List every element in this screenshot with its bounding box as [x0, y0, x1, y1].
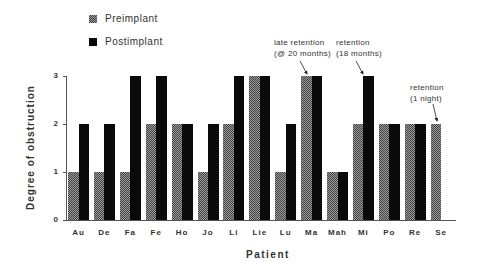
- arrow-se: [433, 104, 437, 121]
- arrow-ma: [300, 61, 307, 74]
- arrow-mi: [356, 61, 363, 74]
- bar-chart: Preimplant Postimplant Degree of obstruc…: [0, 0, 481, 273]
- annotation-arrows: [0, 0, 481, 273]
